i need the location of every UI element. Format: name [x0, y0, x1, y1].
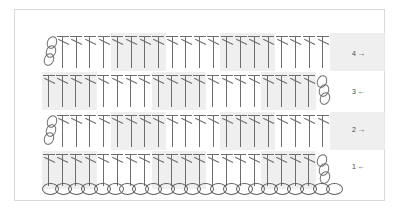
row-label-number: 4 — [352, 49, 356, 58]
double-crochet-stitch-icon — [83, 33, 97, 71]
dc-slash — [208, 78, 219, 84]
double-crochet-stitch-icon — [97, 72, 111, 110]
dc-slash — [71, 157, 82, 163]
double-crochet-stitch-icon — [83, 112, 97, 150]
dc-slash — [180, 157, 191, 163]
dc-slash — [126, 78, 137, 84]
double-crochet-stitch-icon — [42, 72, 56, 110]
dc-slash — [112, 39, 123, 45]
dc-slash — [290, 118, 301, 124]
double-crochet-stitch-icon — [220, 33, 234, 71]
dc-slash — [277, 118, 288, 124]
row-label-number: 1 — [352, 162, 356, 171]
double-crochet-stitch-icon — [275, 33, 289, 71]
dc-slash — [235, 78, 246, 84]
double-crochet-stitch-icon — [56, 112, 70, 150]
dc-slash — [194, 118, 205, 124]
foundation-chain-stitch-icon — [326, 183, 343, 195]
row-label-3: 3← — [352, 86, 366, 96]
dc-slash — [263, 157, 274, 163]
double-crochet-stitch-icon — [179, 72, 193, 110]
dc-slash — [71, 118, 82, 124]
dc-slash — [167, 78, 178, 84]
dc-slash — [167, 118, 178, 124]
row-label-4: 4→ — [352, 48, 366, 58]
dc-slash — [98, 78, 109, 84]
dc-slash — [318, 39, 329, 45]
double-crochet-stitch-icon — [248, 33, 262, 71]
row-direction-arrow-icon: → — [357, 125, 365, 134]
double-crochet-stitch-icon — [234, 33, 248, 71]
dc-slash — [304, 78, 315, 84]
double-crochet-stitch-icon — [138, 33, 152, 71]
double-crochet-stitch-icon — [220, 112, 234, 150]
dc-slash — [140, 118, 151, 124]
double-crochet-stitch-icon — [166, 33, 180, 71]
stitch-row — [42, 72, 338, 110]
dc-slash — [153, 157, 164, 163]
dc-slash — [290, 157, 301, 163]
dc-slash — [57, 118, 68, 124]
row-direction-arrow-icon: ← — [357, 87, 365, 96]
row-direction-arrow-icon: → — [357, 49, 365, 58]
double-crochet-stitch-icon — [166, 112, 180, 150]
dc-slash — [85, 39, 96, 45]
double-crochet-stitch-icon — [97, 33, 111, 71]
double-crochet-stitch-icon — [289, 33, 303, 71]
dc-slash — [263, 118, 274, 124]
double-crochet-stitch-icon — [152, 112, 166, 150]
dc-slash — [98, 157, 109, 163]
dc-slash — [167, 157, 178, 163]
dc-slash — [236, 39, 247, 45]
foundation-chain-row — [42, 183, 340, 196]
dc-slash — [276, 78, 287, 84]
dc-slash — [57, 157, 68, 163]
dc-slash — [249, 118, 260, 124]
double-crochet-stitch-icon — [193, 72, 207, 110]
double-crochet-stitch-icon — [248, 112, 262, 150]
dc-slash — [249, 39, 260, 45]
double-crochet-stitch-icon — [248, 72, 262, 110]
double-crochet-stitch-icon — [125, 33, 139, 71]
dc-slash — [276, 157, 287, 163]
dc-slash — [304, 157, 315, 163]
double-crochet-stitch-icon — [165, 72, 179, 110]
dc-slash — [43, 157, 54, 163]
stitch-row — [42, 112, 338, 150]
double-crochet-stitch-icon — [193, 112, 207, 150]
dc-slash — [126, 39, 137, 45]
double-crochet-stitch-icon — [206, 72, 220, 110]
double-crochet-stitch-icon — [69, 72, 83, 110]
dc-slash — [249, 78, 260, 84]
dc-slash — [112, 157, 123, 163]
dc-slash — [85, 157, 96, 163]
row-label-1: 1← — [352, 161, 366, 171]
crochet-chart-page: 4→ 3← 2→ 1← — [0, 0, 415, 213]
dc-slash — [140, 39, 151, 45]
double-crochet-stitch-icon — [111, 33, 125, 71]
dc-slash — [153, 118, 164, 124]
dc-slash — [208, 118, 219, 124]
double-crochet-stitch-icon — [56, 72, 70, 110]
double-crochet-stitch-icon — [138, 72, 152, 110]
double-crochet-stitch-icon — [111, 112, 125, 150]
dc-slash — [277, 39, 288, 45]
dc-slash — [290, 39, 301, 45]
dc-slash — [222, 39, 233, 45]
row-direction-arrow-icon: ← — [357, 162, 365, 171]
double-crochet-stitch-icon — [275, 72, 289, 110]
double-crochet-stitch-icon — [152, 33, 166, 71]
dc-slash — [194, 157, 205, 163]
dc-slash — [43, 78, 54, 84]
double-crochet-stitch-icon — [152, 72, 166, 110]
double-crochet-stitch-icon — [70, 33, 84, 71]
dc-slash — [139, 157, 150, 163]
dc-slash — [249, 157, 260, 163]
double-crochet-stitch-icon — [56, 33, 70, 71]
double-crochet-stitch-icon — [97, 112, 111, 150]
dc-slash — [85, 118, 96, 124]
double-crochet-stitch-icon — [70, 112, 84, 150]
dc-slash — [99, 39, 110, 45]
dc-slash — [194, 78, 205, 84]
dc-slash — [85, 78, 96, 84]
